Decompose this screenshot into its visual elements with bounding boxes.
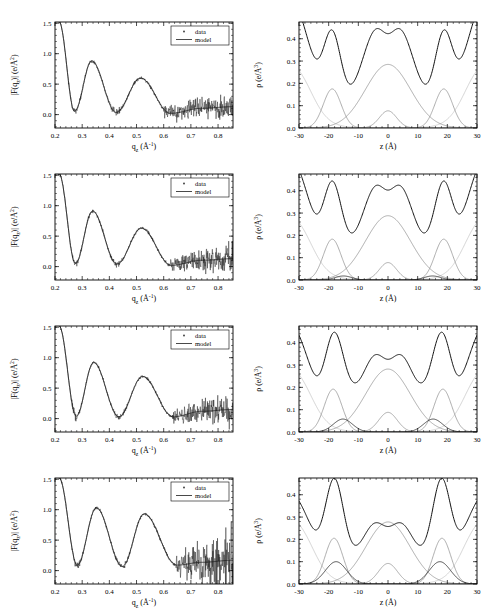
figure-panel-grid: 0.20.30.40.50.60.70.80.00.51.01.5qz (Å-1… [0, 0, 488, 608]
x-tick-label: -10 [354, 588, 364, 596]
legend-label-data: data [195, 180, 206, 187]
x-tick-label: 0.7 [187, 284, 196, 292]
y-tick-label: 1.0 [43, 354, 52, 362]
x-tick-label: 0.3 [78, 132, 87, 140]
legend-label-model: model [195, 36, 211, 43]
y-tick-label: 1.5 [43, 476, 52, 484]
water-component-curve [299, 374, 477, 432]
x-axis-label: qz (Å-1) [132, 445, 157, 456]
x-axis-label: z (Å) [380, 142, 397, 151]
water-component-curve [299, 222, 477, 280]
legend-label-model: model [195, 188, 211, 195]
x-tick-label: 0.6 [159, 132, 168, 140]
y-tick-label: 0.0 [287, 429, 296, 437]
methylene-component-curve [299, 64, 477, 128]
x-tick-label: 0.8 [214, 284, 223, 292]
y-axis-label: ρ (e/Å3) [253, 214, 263, 240]
x-tick-label: 0 [386, 436, 390, 444]
y-tick-label: 0.5 [43, 537, 52, 545]
density-series-group [299, 169, 477, 280]
legend: datamodel [171, 178, 229, 197]
x-tick-label: 0.6 [159, 436, 168, 444]
x-tick-label: -10 [354, 132, 364, 140]
x-tick-label: -10 [354, 436, 364, 444]
x-tick-label: 0.7 [187, 132, 196, 140]
x-tick-label: 10 [414, 588, 422, 596]
x-axis-label: qz (Å-1) [132, 293, 157, 304]
plot-frame [299, 22, 477, 128]
panel-structure-factor-row3: 0.20.30.40.50.60.70.80.00.51.01.5qz (Å-1… [0, 304, 244, 456]
density-series-group [299, 478, 477, 584]
x-tick-label: 20 [444, 132, 452, 140]
x-tick-label: -30 [294, 436, 304, 444]
x-tick-label: -30 [294, 588, 304, 596]
x-tick-label: 0.5 [132, 436, 141, 444]
x-tick-label: -20 [324, 436, 334, 444]
y-tick-label: 0.2 [287, 536, 296, 544]
x-tick-label: 0.8 [214, 436, 223, 444]
y-tick-label: 1.0 [43, 202, 52, 210]
model-curve [55, 4, 233, 114]
figure-row: 0.20.30.40.50.60.70.80.00.51.01.5qz (Å-1… [0, 456, 488, 608]
x-tick-label: -30 [294, 284, 304, 292]
y-tick-label: 0.2 [287, 80, 296, 88]
x-tick-label: 0.4 [105, 132, 114, 140]
y-tick-label: 0.4 [287, 339, 296, 347]
panel-electron-density-row2: -30-20-1001020300.00.10.20.30.4z (Å)ρ (e… [244, 152, 488, 304]
x-tick-label: 0.4 [105, 284, 114, 292]
legend-data-marker [183, 31, 185, 33]
panel-electron-density-row4: -30-20-1001020300.00.10.20.30.4z (Å)ρ (e… [244, 456, 488, 608]
water-component-curve [299, 70, 477, 128]
x-tick-label: 0 [386, 284, 390, 292]
y-axis-label: |F(qz)| (e/Å2) [9, 510, 21, 551]
x-tick-label: 20 [444, 284, 452, 292]
total-density-curve [299, 169, 477, 233]
x-tick-label: 20 [444, 436, 452, 444]
y-tick-label: 0.3 [287, 210, 296, 218]
x-tick-label: 30 [474, 588, 482, 596]
x-tick-label: -30 [294, 132, 304, 140]
y-axis-label: ρ (e/Å3) [253, 366, 263, 392]
x-tick-label: 0.5 [132, 132, 141, 140]
headgroup-component-curve-right [299, 538, 477, 584]
model-curve [55, 308, 233, 417]
x-tick-label: 30 [474, 436, 482, 444]
y-tick-label: 0.1 [287, 558, 296, 566]
panel-structure-factor-row4: 0.20.30.40.50.60.70.80.00.51.01.5qz (Å-1… [0, 456, 244, 608]
data-series [55, 155, 233, 274]
x-tick-label: 0 [386, 588, 390, 596]
x-tick-label: 10 [414, 132, 422, 140]
model-curve [55, 460, 233, 567]
methylene-component-curve [299, 369, 477, 432]
x-tick-label: 0.4 [105, 436, 114, 444]
x-axis-label: z (Å) [380, 446, 397, 455]
x-tick-label: -20 [324, 284, 334, 292]
x-tick-label: -20 [324, 132, 334, 140]
figure-row: 0.20.30.40.50.60.70.80.00.51.01.5qz (Å-1… [0, 152, 488, 304]
x-tick-label: 0.4 [105, 588, 114, 596]
y-tick-label: 0.4 [287, 491, 296, 499]
y-axis-label: |F(qz)| (e/Å2) [9, 206, 21, 247]
total-density-curve [299, 332, 477, 383]
y-tick-label: 0.0 [287, 581, 296, 589]
x-tick-label: 0 [386, 132, 390, 140]
legend: datamodel [171, 330, 229, 349]
y-tick-label: 0.0 [43, 111, 52, 119]
y-axis-label: ρ (e/Å3) [253, 518, 263, 544]
data-series [55, 459, 233, 592]
x-tick-label: 0.6 [159, 284, 168, 292]
x-tick-label: 0.2 [51, 284, 60, 292]
y-tick-label: 0.4 [287, 35, 296, 43]
model-curve [55, 156, 233, 266]
y-tick-label: 0.3 [287, 362, 296, 370]
legend-data-marker [183, 183, 185, 185]
x-axis-label: z (Å) [380, 598, 397, 607]
y-tick-label: 0.1 [287, 102, 296, 110]
y-tick-label: 0.2 [287, 232, 296, 240]
x-tick-label: 0.5 [132, 284, 141, 292]
methylene-component-curve [299, 522, 477, 584]
x-tick-label: -10 [354, 284, 364, 292]
x-tick-label: 0.3 [78, 588, 87, 596]
legend-label-data: data [195, 28, 206, 35]
y-tick-label: 0.1 [287, 254, 296, 262]
